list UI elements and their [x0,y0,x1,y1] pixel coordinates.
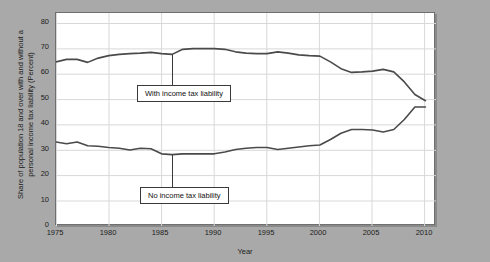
y-tick-0: 0 [23,221,49,229]
annotation-leader-lower [172,155,173,187]
y-tick-70: 70 [23,43,49,51]
x-tick-2000: 2000 [301,229,335,237]
series-line-no-income-tax-liability [56,107,425,155]
y-tick-30: 30 [23,145,49,153]
data-series-lines [56,13,436,226]
y-tick-40: 40 [23,119,49,127]
x-tick-1980: 1980 [91,229,125,237]
series-line-with-income-tax-liability [56,49,425,101]
annotation-leader-upper [172,54,173,85]
x-tick-1985: 1985 [143,229,177,237]
y-tick-60: 60 [23,68,49,76]
y-tick-80: 80 [23,18,49,26]
y-tick-10: 10 [23,196,49,204]
x-tick-1990: 1990 [196,229,230,237]
annotation-with-income-tax-liability: With income tax liability [137,85,231,102]
annotation-no-income-tax-liability: No income tax liability [140,187,229,204]
y-tick-50: 50 [23,94,49,102]
x-tick-1995: 1995 [249,229,283,237]
plot-area: With income tax liability No income tax … [55,12,435,225]
x-axis-title: Year [0,247,490,256]
x-tick-2010: 2010 [407,229,441,237]
x-tick-1975: 1975 [38,229,72,237]
chart-figure: Share of population 18 and over with and… [0,0,490,262]
x-tick-2005: 2005 [354,229,388,237]
y-tick-20: 20 [23,170,49,178]
